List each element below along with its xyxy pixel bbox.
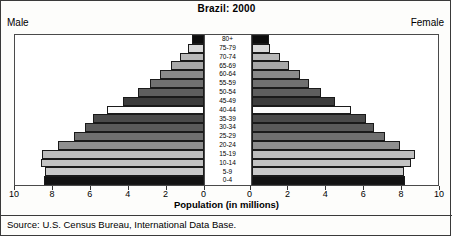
male-side: [15, 97, 204, 106]
female-side: [252, 123, 441, 132]
female-side: [252, 159, 441, 168]
age-group-label: 50-54: [204, 88, 252, 97]
pyramid-row: 60-64: [15, 70, 438, 79]
female-side: [252, 150, 441, 159]
pyramid-row: 70-74: [15, 53, 438, 62]
female-tick-label: 2: [285, 189, 290, 199]
female-tick-label: 0: [247, 189, 252, 199]
age-group-label: 5-9: [204, 167, 252, 176]
male-bar: [160, 70, 203, 79]
male-bar: [42, 150, 203, 159]
age-group-label: 25-29: [204, 132, 252, 141]
age-group-label: 45-49: [204, 97, 252, 106]
age-group-label: 65-69: [204, 61, 252, 70]
male-bar: [192, 35, 203, 44]
female-side: [252, 61, 441, 70]
female-side: [252, 114, 441, 123]
pyramid-row: 40-44: [15, 106, 438, 115]
male-bar: [74, 132, 203, 141]
pyramid-row: 75-79: [15, 44, 438, 53]
female-bar: [252, 44, 271, 53]
male-tick-label: 8: [49, 189, 54, 199]
male-bar: [123, 97, 203, 106]
female-side: [252, 53, 441, 62]
male-tick-label: 4: [125, 189, 130, 199]
male-bar: [150, 79, 204, 88]
x-axis: 00224466881010: [14, 186, 439, 200]
pyramid-row: 30-34: [15, 123, 438, 132]
male-tick-label: 2: [163, 189, 168, 199]
female-bar: [252, 167, 405, 176]
pyramid-row: 50-54: [15, 88, 438, 97]
male-bar: [171, 61, 204, 70]
age-group-label: 15-19: [204, 150, 252, 159]
age-group-label: 10-14: [204, 159, 252, 168]
pyramid-rows: 0-45-910-1415-1920-2425-2930-3435-3940-4…: [15, 35, 438, 185]
male-bar: [93, 114, 203, 123]
male-side: [15, 61, 204, 70]
male-bar: [107, 106, 203, 115]
female-bar: [252, 61, 290, 70]
age-group-label: 0-4: [204, 176, 252, 185]
age-group-label: 80+: [204, 35, 252, 44]
female-axis-label: Female: [411, 17, 444, 28]
female-side: [252, 176, 441, 185]
male-bar: [188, 44, 203, 53]
female-tick-label: 8: [399, 189, 404, 199]
female-bar: [252, 106, 352, 115]
male-side: [15, 159, 204, 168]
female-tick-label: 10: [434, 189, 444, 199]
pyramid-row: 55-59: [15, 79, 438, 88]
male-side: [15, 132, 204, 141]
male-side: [15, 114, 204, 123]
female-bar: [252, 53, 280, 62]
female-bar: [252, 79, 309, 88]
female-bar: [252, 176, 406, 185]
male-tick-label: 0: [201, 189, 206, 199]
male-bar: [138, 88, 204, 97]
female-bar: [252, 150, 415, 159]
female-side: [252, 106, 441, 115]
plot-area: 0-45-910-1415-1920-2425-2930-3435-3940-4…: [14, 34, 439, 186]
pyramid-row: 80+: [15, 35, 438, 44]
age-group-label: 70-74: [204, 53, 252, 62]
age-group-label: 35-39: [204, 114, 252, 123]
male-axis-label: Male: [7, 17, 29, 28]
male-side: [15, 35, 204, 44]
male-side: [15, 123, 204, 132]
pyramid-row: 10-14: [15, 159, 438, 168]
female-side: [252, 70, 441, 79]
female-bar: [252, 159, 411, 168]
age-group-label: 55-59: [204, 79, 252, 88]
age-group-label: 30-34: [204, 123, 252, 132]
female-side: [252, 44, 441, 53]
page-title: Brazil: 2000: [1, 3, 452, 14]
male-side: [15, 141, 204, 150]
female-side: [252, 79, 441, 88]
male-side: [15, 167, 204, 176]
female-bar: [252, 35, 270, 44]
male-bar: [41, 159, 203, 168]
pyramid-row: 5-9: [15, 167, 438, 176]
male-bar: [58, 141, 203, 150]
source-note: Source: U.S. Census Bureau, Internationa…: [1, 215, 452, 230]
female-bar: [252, 123, 375, 132]
female-bar: [252, 97, 336, 106]
male-side: [15, 150, 204, 159]
male-bar: [45, 167, 203, 176]
female-side: [252, 97, 441, 106]
pyramid-row: 0-4: [15, 176, 438, 185]
male-bar: [85, 123, 204, 132]
female-bar: [252, 114, 366, 123]
male-side: [15, 79, 204, 88]
male-bar: [44, 176, 203, 185]
x-axis-title: Population (in millions): [1, 199, 452, 210]
male-side: [15, 53, 204, 62]
male-side: [15, 70, 204, 79]
female-bar: [252, 70, 300, 79]
male-side: [15, 88, 204, 97]
male-side: [15, 176, 204, 185]
pyramid-row: 45-49: [15, 97, 438, 106]
age-group-label: 40-44: [204, 106, 252, 115]
